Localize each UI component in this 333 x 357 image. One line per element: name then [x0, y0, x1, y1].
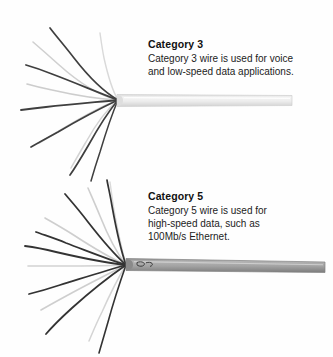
caption-category-5-body: Category 5 wire is used for high-speed d…	[148, 204, 328, 243]
cat3-jacket	[117, 95, 292, 107]
caption-category-5: Category 5 Category 5 wire is used for h…	[148, 190, 328, 243]
cat3-dark-strands	[21, 28, 118, 181]
caption-category-3-title: Category 3	[148, 38, 328, 51]
caption-category-5-title: Category 5	[148, 190, 328, 203]
caption-category-3: Category 3 Category 3 wire is used for v…	[148, 38, 328, 78]
cat3-jacket-highlight	[124, 98, 290, 99]
caption-category-3-body: Category 3 wire is used for voice and lo…	[148, 52, 328, 78]
cable-comparison-figure: Category 3 Category 3 wire is used for v…	[0, 0, 333, 357]
cat5-jacket	[126, 259, 325, 273]
